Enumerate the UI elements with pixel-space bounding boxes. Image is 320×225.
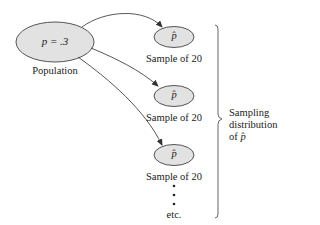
continuation-dot (173, 185, 176, 188)
sample-statistic-3: p̂ (171, 149, 176, 160)
sample-label-1: Sample of 20 (146, 54, 202, 65)
bracket-label-of: of (229, 131, 238, 142)
sample-statistic-2: p̂ (171, 90, 176, 101)
sample-label-3: Sample of 20 (146, 172, 202, 183)
p-hat-symbol: p̂ (240, 131, 245, 142)
sample-label-2: Sample of 20 (146, 113, 202, 124)
right-brace (215, 25, 222, 218)
population-parameter: p = .3 (42, 36, 69, 47)
continuation-dot (173, 194, 176, 197)
sample-statistic-1: p̂ (171, 31, 176, 42)
arrow-to-sample-3 (78, 57, 162, 145)
sampling-distribution-label: Sampling distribution of p̂ (229, 107, 277, 143)
bracket-label-line-2: distribution (229, 119, 277, 131)
arrow-to-sample-1 (82, 13, 162, 27)
continuation-dot (173, 203, 176, 206)
population-label: Population (32, 66, 78, 77)
etc-label: etc. (167, 210, 182, 221)
bracket-label-line-3: of p̂ (229, 131, 277, 143)
bracket-label-line-1: Sampling (229, 107, 277, 119)
